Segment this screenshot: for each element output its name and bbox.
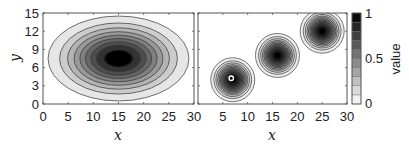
y-tick-label: 15 — [25, 6, 39, 21]
x-tick-label: 10 — [86, 109, 100, 124]
contour-figure: 03691215 051015202530 x y 51015202530 x … — [0, 0, 409, 147]
x-tick-label: 20 — [136, 109, 150, 124]
colorbar-band — [352, 68, 361, 77]
right-x-tick-labels: 51015202530 — [219, 109, 354, 124]
colorbar-band — [352, 22, 361, 31]
x-tick-label: 25 — [162, 109, 176, 124]
x-tick-label: 5 — [219, 109, 226, 124]
colorbar-tick-mid: 0.5 — [365, 51, 383, 66]
x-tick-label: 30 — [340, 109, 354, 124]
peak-core — [275, 53, 280, 58]
left-x-axis-label: x — [114, 127, 122, 143]
left-contour-plot: 03691215 051015202530 x y — [7, 6, 201, 144]
peak-core — [320, 29, 325, 34]
colorbar-band — [352, 86, 361, 95]
colorbar-band — [352, 13, 361, 22]
right-contour-plot: 51015202530 x — [198, 9, 354, 143]
right-x-axis-label: x — [268, 127, 276, 143]
colorbar-bands — [352, 13, 361, 104]
colorbar-band — [352, 31, 361, 40]
peak-core — [106, 51, 131, 66]
colorbar: 1 0.5 0 value — [352, 6, 403, 111]
colorbar-band — [352, 77, 361, 86]
y-tick-label: 6 — [32, 60, 39, 75]
x-tick-label: 30 — [187, 109, 201, 124]
x-tick-label: 20 — [290, 109, 304, 124]
colorbar-band — [352, 95, 361, 104]
left-y-tick-labels: 03691215 — [25, 6, 39, 112]
x-tick-label: 25 — [315, 109, 329, 124]
x-tick-label: 15 — [111, 109, 125, 124]
x-tick-label: 15 — [265, 109, 279, 124]
x-tick-label: 0 — [39, 109, 46, 124]
y-tick-label: 3 — [32, 78, 39, 93]
x-tick-label: 5 — [65, 109, 72, 124]
colorbar-band — [352, 49, 361, 58]
y-tick-label: 9 — [32, 42, 39, 57]
colorbar-label: value — [388, 43, 403, 74]
x-tick-label: 10 — [240, 109, 254, 124]
colorbar-band — [352, 40, 361, 49]
left-contour-bands — [48, 16, 189, 101]
colorbar-tick-min: 0 — [365, 96, 372, 111]
white-ring-marker — [229, 76, 233, 80]
colorbar-tick-max: 1 — [365, 6, 372, 21]
colorbar-band — [352, 59, 361, 68]
left-y-axis-label: y — [7, 53, 23, 63]
y-tick-label: 0 — [32, 97, 39, 112]
left-x-tick-labels: 051015202530 — [39, 109, 201, 124]
y-tick-label: 12 — [25, 24, 39, 39]
